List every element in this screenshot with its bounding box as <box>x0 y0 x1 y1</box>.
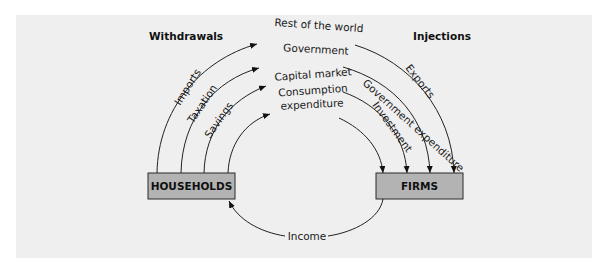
circular-flow-diagram: Withdrawals Injections Rest of the world… <box>0 0 609 268</box>
consumption-label-line2: expenditure <box>280 96 344 111</box>
rest-of-world-label: Rest of the world <box>274 16 364 34</box>
firms-node: FIRMS <box>376 173 463 199</box>
consumption-expenditure-arrow <box>339 118 383 173</box>
government-expenditure-label: Government expenditure <box>361 77 467 174</box>
government-label: Government <box>283 41 349 56</box>
households-node: HOUSEHOLDS <box>148 173 235 199</box>
households-label: HOUSEHOLDS <box>151 180 233 192</box>
income-label: Income <box>288 230 327 242</box>
firms-label: FIRMS <box>401 180 438 192</box>
injections-header: Injections <box>413 30 471 42</box>
exports-label: Exports <box>403 62 437 101</box>
capital-market-label: Capital market <box>274 65 352 82</box>
withdrawals-header: Withdrawals <box>149 30 223 42</box>
imports-arrow <box>157 44 257 173</box>
consumption-arrow <box>228 114 270 173</box>
income-arrow-left <box>229 201 285 236</box>
income-arrow-right <box>328 199 383 236</box>
